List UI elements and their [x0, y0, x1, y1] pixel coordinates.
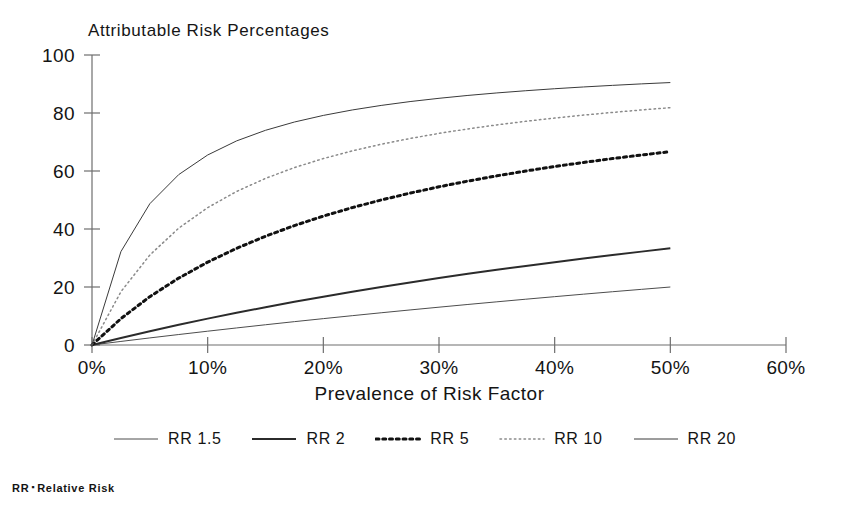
x-axis-tick-label: 10% — [188, 357, 227, 378]
x-axis-tick-label: 30% — [419, 357, 458, 378]
legend-item[interactable]: RR 10 — [499, 430, 602, 448]
footnote-separator-icon: ▪ — [29, 482, 37, 492]
footnote-abbrev: RR — [12, 482, 29, 494]
x-axis-tick-label: 40% — [535, 357, 574, 378]
y-axis-tick-label: 0 — [64, 335, 75, 356]
legend-item[interactable]: RR 1.5 — [113, 430, 221, 448]
x-axis-tick-label: 50% — [651, 357, 690, 378]
chart-plot-area: 020406080100 0%10%20%30%40%50%60% — [0, 0, 849, 430]
series-line — [92, 287, 670, 345]
x-axis-tick-label: 20% — [304, 357, 343, 378]
footnote-expansion: Relative Risk — [37, 482, 115, 494]
chart-figure: Attributable Risk Percentages 0204060801… — [0, 0, 849, 507]
legend-label: RR 1.5 — [168, 430, 221, 448]
data-series-group — [92, 83, 670, 345]
y-axis-tick-label: 100 — [42, 45, 75, 66]
x-axis-tick-labels: 0%10%20%30%40%50%60% — [78, 357, 806, 378]
legend-item[interactable]: RR 2 — [251, 430, 345, 448]
x-axis-tick-label: 60% — [766, 357, 805, 378]
y-axis-tick-labels: 020406080100 — [42, 45, 75, 356]
legend-swatch-icon — [251, 433, 297, 445]
footnote: RR▪Relative Risk — [12, 482, 115, 494]
y-axis-tick-label: 60 — [53, 161, 75, 182]
legend-swatch-icon — [113, 433, 159, 445]
series-line — [92, 152, 670, 345]
series-line — [92, 108, 670, 345]
legend-swatch-icon — [499, 433, 545, 445]
y-axis-tick-label: 80 — [53, 103, 75, 124]
legend-item[interactable]: RR 20 — [633, 430, 736, 448]
legend-label: RR 10 — [554, 430, 602, 448]
legend-label: RR 2 — [306, 430, 345, 448]
legend-swatch-icon — [375, 433, 421, 445]
series-line — [92, 248, 670, 345]
series-line — [92, 83, 670, 345]
y-axis-tick-label: 20 — [53, 277, 75, 298]
chart-legend: RR 1.5RR 2RR 5RR 10RR 20 — [0, 430, 849, 448]
axis-lines — [84, 55, 786, 353]
legend-label: RR 20 — [688, 430, 736, 448]
x-axis-title: Prevalence of Risk Factor — [0, 383, 849, 405]
legend-swatch-icon — [633, 433, 679, 445]
y-axis-tick-label: 40 — [53, 219, 75, 240]
legend-item[interactable]: RR 5 — [375, 430, 469, 448]
legend-label: RR 5 — [430, 430, 469, 448]
x-axis-tick-label: 0% — [78, 357, 106, 378]
